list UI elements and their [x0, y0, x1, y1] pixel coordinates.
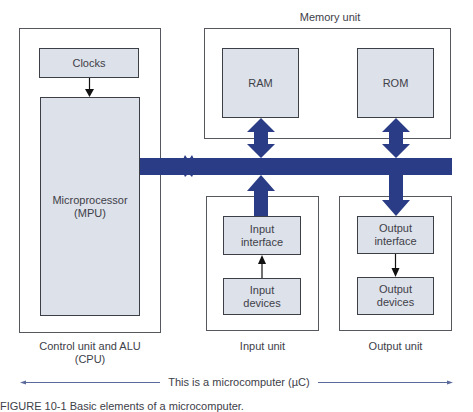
span-right-arrowhead-icon — [447, 381, 453, 385]
input-devices-arrow-icon — [258, 255, 266, 264]
cpu-label-line1: Control unit and ALU — [20, 340, 160, 353]
span-left-arrowhead-icon — [20, 381, 26, 385]
output-devices-arrow-icon — [392, 268, 400, 277]
figure-caption: FIGURE 10-1 Basic elements of a microcom… — [0, 400, 244, 412]
output-unit-label: Output unit — [339, 340, 452, 353]
ram-bus-arrow-icon — [247, 118, 275, 158]
cpu-label-line2: (CPU) — [20, 353, 160, 366]
microcomputer-span-label: This is a microcomputer (µC) — [160, 376, 318, 389]
cpu-unit-label: Control unit and ALU (CPU) — [20, 340, 160, 366]
input-unit-label: Input unit — [206, 340, 319, 353]
input-bus-arrow-icon — [247, 175, 275, 216]
clocks-to-mpu-arrow-icon — [85, 89, 94, 97]
rom-bus-arrow-icon — [382, 118, 410, 158]
output-bus-arrow-icon — [382, 175, 410, 216]
